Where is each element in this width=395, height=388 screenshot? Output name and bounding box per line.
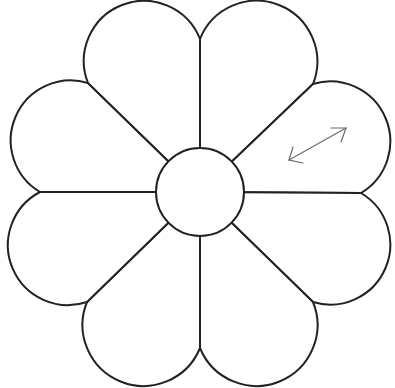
flower-svg [0, 0, 395, 388]
center-circle [156, 148, 244, 236]
flower-diagram [0, 0, 395, 388]
